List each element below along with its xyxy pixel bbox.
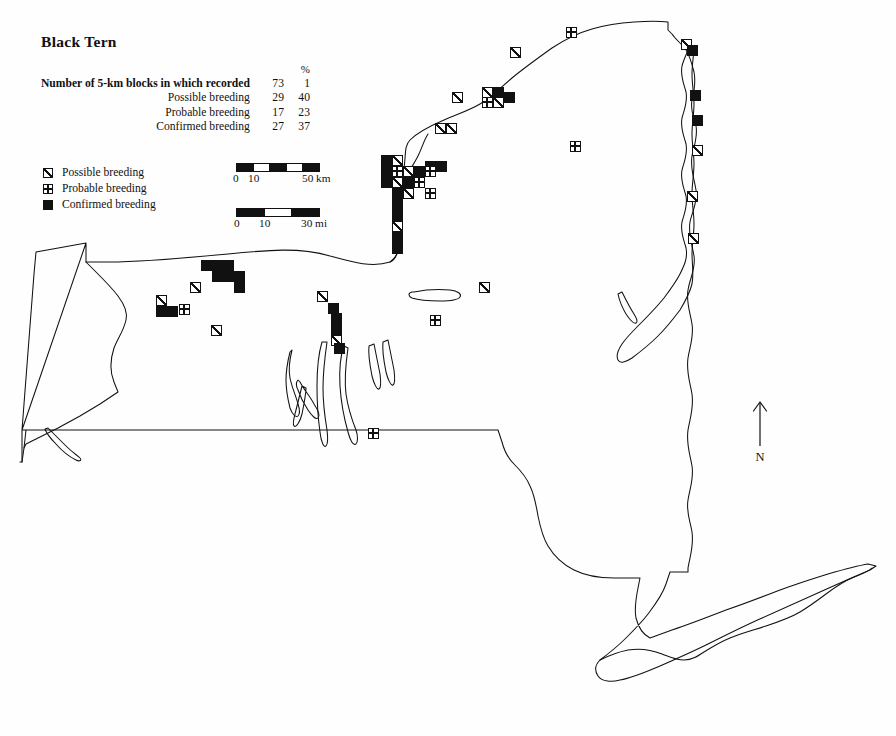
lake-keuka	[293, 380, 319, 426]
lake-champlain	[617, 44, 694, 362]
long-island	[600, 568, 872, 660]
marker-possible-breeding	[403, 188, 414, 199]
marker-confirmed-breeding	[212, 260, 223, 271]
lake-skaneateles	[383, 340, 395, 385]
lake-canandaigua	[286, 350, 300, 417]
marker-possible-breeding	[392, 221, 403, 232]
oneida-lake	[409, 290, 461, 301]
marker-confirmed-breeding	[687, 45, 698, 56]
marker-confirmed-breeding	[201, 260, 212, 271]
marker-confirmed-breeding	[692, 115, 703, 126]
lake-erie-shore	[24, 262, 127, 448]
marker-confirmed-breeding	[381, 155, 392, 166]
marker-confirmed-breeding	[392, 232, 403, 243]
marker-probable-breeding	[368, 428, 379, 439]
marker-confirmed-breeding	[381, 166, 392, 177]
marker-confirmed-breeding	[331, 313, 342, 324]
lake-seneca	[317, 342, 328, 446]
marker-confirmed-breeding	[381, 177, 392, 188]
marker-possible-breeding	[688, 233, 699, 244]
marker-confirmed-breeding	[392, 210, 403, 221]
marker-probable-breeding	[425, 166, 436, 177]
marker-probable-breeding	[566, 27, 577, 38]
marker-confirmed-breeding	[436, 161, 447, 172]
marker-confirmed-breeding	[223, 271, 234, 282]
chautauqua-lake	[45, 428, 81, 461]
state-outline	[20, 21, 876, 681]
marker-possible-breeding	[156, 295, 167, 306]
lake-george	[618, 292, 637, 323]
atlas-map-page: Black Tern % Number of 5-km blocks in wh…	[0, 0, 896, 736]
marker-probable-breeding	[430, 315, 441, 326]
marker-probable-breeding	[570, 141, 581, 152]
marker-confirmed-breeding	[690, 90, 701, 101]
marker-probable-breeding	[425, 188, 436, 199]
marker-probable-breeding	[482, 97, 493, 108]
marker-confirmed-breeding	[234, 282, 245, 293]
marker-possible-breeding	[317, 291, 328, 302]
marker-confirmed-breeding	[504, 92, 515, 103]
marker-confirmed-breeding	[392, 199, 403, 210]
marker-confirmed-breeding	[156, 306, 167, 317]
marker-possible-breeding	[452, 92, 463, 103]
marker-possible-breeding	[211, 325, 222, 336]
marker-possible-breeding	[493, 97, 504, 108]
marker-confirmed-breeding	[334, 343, 345, 354]
marker-confirmed-breeding	[331, 324, 342, 335]
marker-confirmed-breeding	[414, 166, 425, 177]
marker-probable-breeding	[179, 304, 190, 315]
marker-confirmed-breeding	[212, 271, 223, 282]
new-york-state-map	[0, 0, 896, 736]
marker-confirmed-breeding	[403, 177, 414, 188]
marker-probable-breeding	[392, 166, 403, 177]
marker-possible-breeding	[392, 177, 403, 188]
marker-confirmed-breeding	[234, 271, 245, 282]
map-vector	[0, 0, 896, 736]
marker-possible-breeding	[392, 155, 403, 166]
marker-confirmed-breeding	[167, 306, 178, 317]
marker-probable-breeding	[414, 177, 425, 188]
marker-possible-breeding	[510, 47, 521, 58]
marker-possible-breeding	[403, 166, 414, 177]
marker-confirmed-breeding	[392, 188, 403, 199]
lake-owasco	[369, 344, 381, 389]
marker-possible-breeding	[190, 282, 201, 293]
marker-possible-breeding	[435, 123, 446, 134]
marker-confirmed-breeding	[392, 243, 403, 254]
marker-possible-breeding	[479, 282, 490, 293]
marker-possible-breeding	[692, 145, 703, 156]
marker-confirmed-breeding	[223, 260, 234, 271]
marker-possible-breeding	[446, 123, 457, 134]
marker-possible-breeding	[687, 191, 698, 202]
